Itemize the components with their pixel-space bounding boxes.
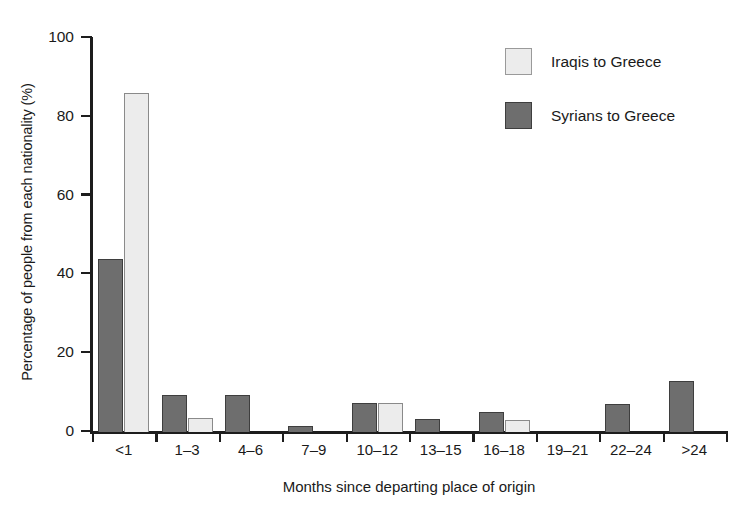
y-axis-tick-label: 40: [57, 264, 74, 282]
bar-group: 7–9: [282, 38, 345, 432]
y-axis-tick: 60: [81, 193, 92, 195]
bar: [669, 381, 694, 432]
x-axis-tick-label: 19–21: [547, 441, 589, 458]
x-axis-tick: [346, 432, 348, 442]
x-axis-tick: [536, 432, 538, 442]
x-axis-tick: [726, 432, 728, 442]
y-axis-tick: 100: [81, 36, 92, 38]
x-axis-tick-label: 1–3: [175, 441, 200, 458]
bar-group-bars: [155, 38, 218, 432]
y-axis-tick-label: 100: [48, 28, 74, 46]
bar: [288, 426, 313, 432]
bar: [124, 93, 149, 432]
y-axis-tick-label: 0: [65, 422, 74, 440]
x-axis-tick: [219, 432, 221, 442]
bar-group-bars: [282, 38, 345, 432]
bar: [162, 395, 187, 432]
y-axis-tick-label: 20: [57, 343, 74, 361]
bar-group-bars: [346, 38, 409, 432]
bar-group: 1–3: [155, 38, 218, 432]
y-axis-tick: 0: [81, 430, 92, 432]
x-axis-tick-label: 16–18: [483, 441, 525, 458]
x-axis-tick-label: >24: [682, 441, 707, 458]
bar: [605, 404, 630, 432]
y-axis-tick: 20: [81, 351, 92, 353]
bar: [188, 418, 213, 432]
y-axis-title: Percentage of people from each nationali…: [14, 12, 40, 452]
y-axis-tick: 40: [81, 272, 92, 274]
legend-entry: Iraqis to Greece: [505, 48, 675, 75]
x-axis-tick-label: 4–6: [238, 441, 263, 458]
x-axis-tick: [409, 432, 411, 442]
bar: [225, 395, 250, 432]
x-axis-tick: [282, 432, 284, 442]
x-axis-tick-label: 22–24: [610, 441, 652, 458]
y-axis-tick-label: 60: [57, 185, 74, 203]
bar: [352, 403, 377, 432]
chart-figure: Percentage of people from each nationali…: [0, 0, 750, 516]
x-axis-tick: [599, 432, 601, 442]
bar-group: 10–12: [346, 38, 409, 432]
bar: [415, 419, 440, 432]
x-axis-tick: [155, 432, 157, 442]
bar: [505, 420, 530, 432]
x-axis-tick-label: 13–15: [420, 441, 462, 458]
legend-swatch: [505, 48, 532, 75]
bar-group-bars: [409, 38, 472, 432]
x-axis-tick-label: <1: [115, 441, 132, 458]
legend-label: Iraqis to Greece: [551, 53, 661, 71]
x-axis-tick: [472, 432, 474, 442]
y-axis-tick-label: 80: [57, 106, 74, 124]
bar-group-bars: [219, 38, 282, 432]
bar: [479, 412, 504, 432]
chart-legend: Iraqis to GreeceSyrians to Greece: [505, 48, 675, 129]
x-axis-tick: [663, 432, 665, 442]
legend-entry: Syrians to Greece: [505, 102, 675, 129]
y-axis-tick: 80: [81, 115, 92, 117]
legend-label: Syrians to Greece: [551, 107, 675, 125]
x-axis-tick: [92, 432, 94, 442]
bar: [378, 403, 403, 432]
bar: [98, 259, 123, 432]
x-axis-tick-label: 10–12: [356, 441, 398, 458]
bar-group: <1: [92, 38, 155, 432]
bar-group-bars: [92, 38, 155, 432]
bar-group: 4–6: [219, 38, 282, 432]
x-axis-tick-label: 7–9: [301, 441, 326, 458]
x-axis-title: Months since departing place of origin: [92, 478, 726, 495]
bar-group: 13–15: [409, 38, 472, 432]
legend-swatch: [505, 102, 532, 129]
